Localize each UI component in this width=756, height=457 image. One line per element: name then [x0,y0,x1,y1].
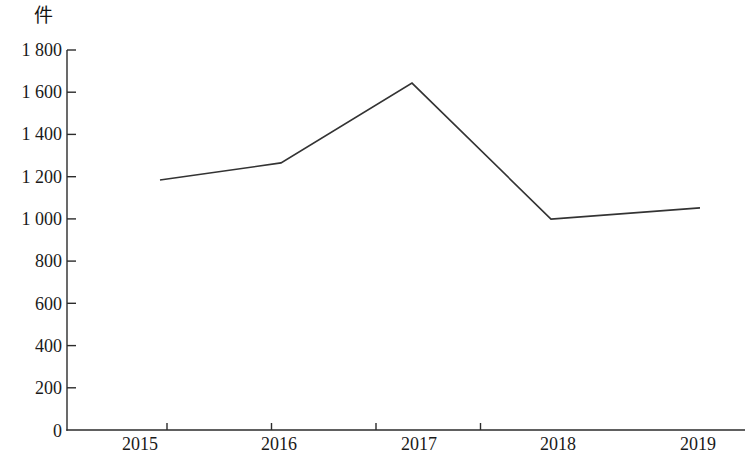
plot-area [0,0,756,457]
x-tick-label: 2018 [540,434,576,454]
x-tick-label: 2019 [680,434,716,454]
x-tick-label: 2016 [261,434,297,454]
x-tick-label: 2017 [401,434,437,454]
data-series-line [160,83,700,219]
x-tick-label: 2015 [122,434,158,454]
line-chart: 件 1 800 1 600 1 400 1 200 1 000 800 600 … [0,0,756,457]
